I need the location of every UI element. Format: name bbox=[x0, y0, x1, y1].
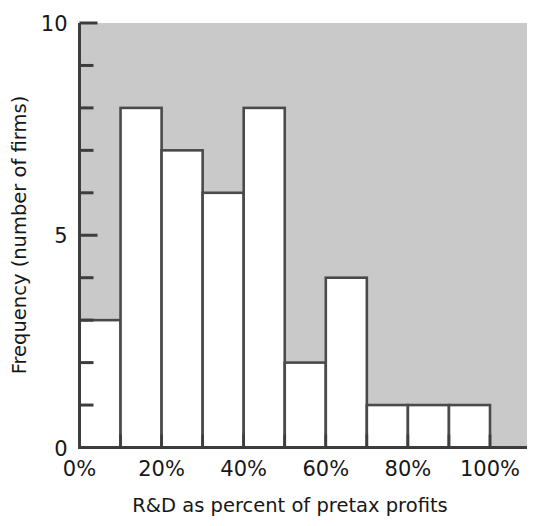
histogram-bar bbox=[244, 108, 285, 448]
y-axis-tick-label: 5 bbox=[54, 224, 67, 248]
y-axis-title: Frequency (number of firms) bbox=[8, 96, 31, 375]
histogram-bar bbox=[408, 405, 449, 447]
y-axis-tick-labels: 0510 bbox=[41, 12, 68, 461]
chart-canvas: 0510 0%20%40%60%80%100% R&D as percent o… bbox=[0, 0, 543, 526]
histogram-bar bbox=[326, 278, 367, 448]
x-axis-tick-label: 20% bbox=[138, 457, 185, 481]
histogram-bar bbox=[121, 108, 162, 448]
histogram-bar bbox=[449, 405, 490, 447]
x-axis-tick-label: 60% bbox=[302, 457, 349, 481]
histogram-bar bbox=[285, 363, 326, 448]
x-axis-tick-label: 100% bbox=[460, 457, 520, 481]
y-axis-tick-label: 10 bbox=[41, 12, 68, 36]
histogram-figure: 0510 0%20%40%60%80%100% R&D as percent o… bbox=[0, 0, 543, 526]
histogram-bar bbox=[203, 193, 244, 448]
x-axis-tick-label: 40% bbox=[220, 457, 267, 481]
x-axis-title: R&D as percent of pretax profits bbox=[132, 494, 447, 517]
x-axis-tick-label: 0% bbox=[63, 457, 96, 481]
x-axis-tick-label: 80% bbox=[385, 457, 432, 481]
histogram-bar bbox=[80, 320, 121, 447]
histogram-bar bbox=[367, 405, 408, 447]
x-axis-tick-labels: 0%20%40%60%80%100% bbox=[63, 457, 520, 481]
histogram-bar bbox=[162, 150, 203, 447]
